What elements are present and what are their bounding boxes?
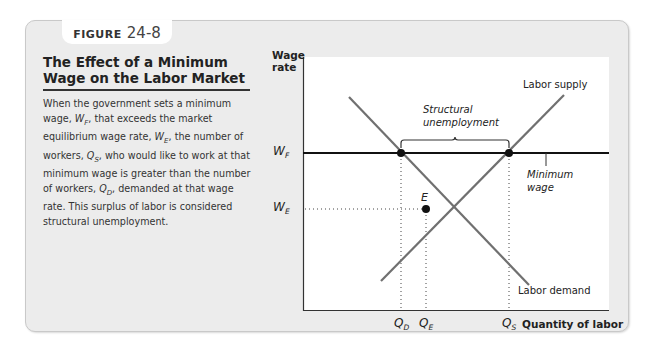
qd-point xyxy=(397,149,405,157)
qd-sub: D xyxy=(403,323,409,332)
labor-supply-label: Labor supply xyxy=(523,79,587,90)
wf-tick-label: WF xyxy=(273,144,289,160)
x-axis-label: Quantity of labor xyxy=(522,318,623,330)
equilibrium-label: E xyxy=(421,191,428,204)
structural-line1: Structural xyxy=(423,103,499,116)
y-label-line2: rate xyxy=(272,61,296,73)
structural-line2: unemployment xyxy=(423,116,499,129)
structural-unemployment-label: Structural unemployment xyxy=(423,103,499,129)
qd-tick-label: QD xyxy=(394,316,409,332)
we-sub: E xyxy=(285,207,290,216)
we-w: W xyxy=(273,200,285,214)
qs-point xyxy=(505,149,513,157)
we-tick-label: WE xyxy=(273,200,290,216)
minimum-line2: wage xyxy=(527,181,573,194)
wf-sub: F xyxy=(285,151,289,160)
labor-demand-label: Labor demand xyxy=(518,285,591,296)
qe-tick-label: QE xyxy=(419,316,433,332)
minimum-line1: Minimum xyxy=(527,168,573,181)
unemployment-bracket xyxy=(401,137,509,148)
y-axis-label: Wage rate xyxy=(272,49,296,73)
minimum-wage-label: Minimum wage xyxy=(527,168,573,194)
qs-tick-label: QS xyxy=(502,316,516,332)
equilibrium-point xyxy=(422,205,430,213)
wf-w: W xyxy=(273,144,285,158)
qs-sub: S xyxy=(511,323,516,332)
qe-sub: E xyxy=(428,323,433,332)
y-label-line1: Wage xyxy=(272,49,296,61)
